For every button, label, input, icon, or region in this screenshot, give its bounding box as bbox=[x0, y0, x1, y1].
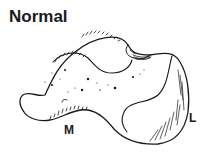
hatching-top bbox=[82, 31, 120, 41]
bone-illustration bbox=[0, 0, 205, 159]
lateral-facet-line bbox=[122, 56, 172, 132]
hatching-lateral bbox=[150, 70, 184, 141]
hatching-bottom-medial bbox=[50, 106, 87, 119]
surface-dots bbox=[44, 69, 144, 93]
small-mark bbox=[62, 99, 67, 102]
lateral-label: L bbox=[189, 111, 196, 125]
bone-outline bbox=[20, 37, 189, 144]
medial-label: M bbox=[64, 123, 74, 137]
